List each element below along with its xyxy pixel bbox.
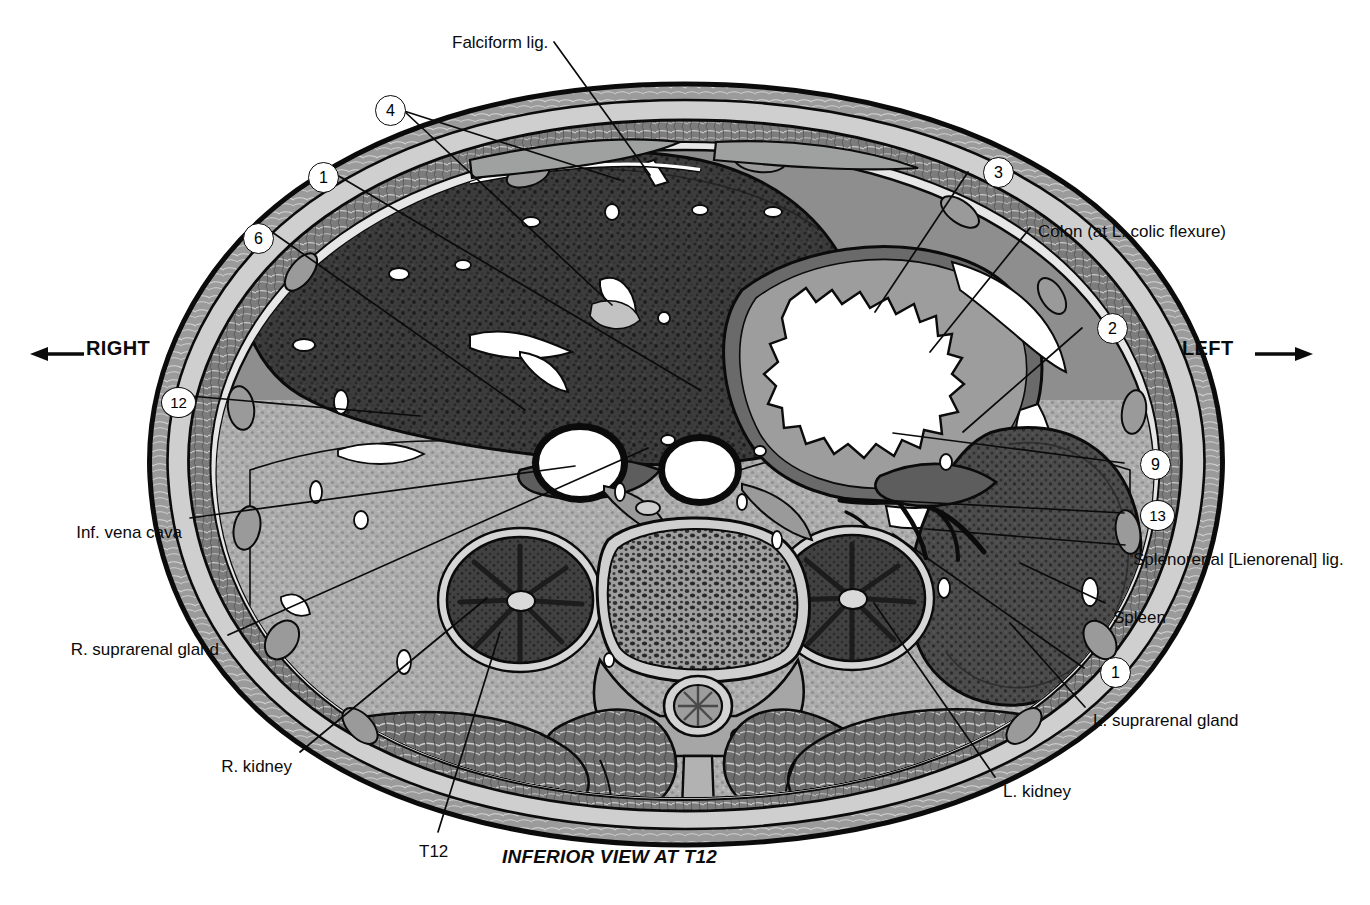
cisterna-chyli	[636, 501, 660, 515]
orientation-left-label: LEFT	[1182, 339, 1234, 358]
label-l-suprarenal: L. suprarenal gland	[1093, 711, 1239, 730]
liver-vessel-3	[522, 217, 540, 227]
label-l-kidney: L. kidney	[1003, 782, 1071, 801]
liver-vessel-4	[605, 204, 619, 220]
key-number-3-4[interactable]: 3	[983, 157, 1014, 188]
liver-vessel-6	[764, 207, 782, 217]
liver-vessel-1	[389, 268, 409, 280]
label-r-kidney: R. kidney	[221, 757, 292, 776]
label-colon: Colon (at L. colic flexure)	[1038, 222, 1226, 241]
key-number-12-3[interactable]: 12	[161, 387, 196, 418]
liver-vessel-8	[293, 339, 315, 351]
key-number-1-8[interactable]: 1	[1100, 657, 1131, 688]
hemiazygos-vein	[754, 446, 766, 456]
right-renal-hilum	[507, 591, 535, 611]
key-number-9-6[interactable]: 9	[1140, 449, 1171, 480]
key-number-2-5[interactable]: 2	[1097, 313, 1128, 344]
liver-vessel-5	[692, 205, 708, 215]
arrow-left-icon	[28, 345, 86, 363]
liver-vessel-11	[354, 511, 368, 529]
key-number-1-1[interactable]: 1	[308, 162, 339, 193]
label-splenorenal: Splenorenal [Lienorenal] lig.	[1133, 550, 1344, 569]
label-ivc: Inf. vena cava	[76, 523, 182, 542]
splenic-vessel	[1082, 578, 1098, 606]
key-number-4-0[interactable]: 4	[375, 95, 406, 126]
liver-vessel-13	[658, 312, 670, 324]
liver-vessel-2	[455, 260, 471, 270]
key-number-6-2[interactable]: 6	[243, 223, 274, 254]
label-spleen: Spleen	[1113, 608, 1166, 627]
label-t12: T12	[419, 842, 448, 861]
azygos-vein	[661, 435, 675, 445]
right-kidney	[438, 528, 602, 672]
left-renal-hilum	[839, 589, 867, 609]
orientation-right-label: RIGHT	[86, 339, 150, 358]
figure-caption: INFERIOR VIEW AT T12	[502, 847, 717, 866]
label-falciform: Falciform lig.	[452, 33, 548, 52]
key-number-13-7[interactable]: 13	[1140, 500, 1175, 531]
arrow-right-icon	[1253, 345, 1315, 363]
figure-canvas: Falciform lig.Colon (at L. colic flexure…	[0, 0, 1370, 905]
label-r-suprarenal: R. suprarenal gland	[71, 640, 219, 659]
